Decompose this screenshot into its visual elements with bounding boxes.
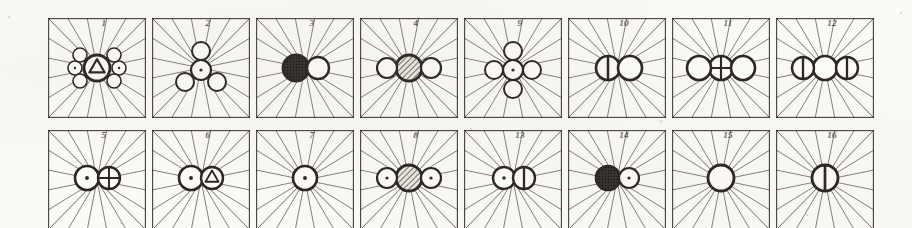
cell-diagram-15	[672, 130, 770, 228]
plate-cell-12: 12	[776, 18, 874, 118]
cell-number-label: 12	[827, 19, 837, 28]
glyph-group	[68, 48, 126, 88]
plate-cell-8: 8	[360, 130, 458, 228]
glyph-group	[687, 56, 755, 80]
cell-diagram-4	[360, 18, 458, 118]
scan-speck	[900, 12, 902, 14]
glyph-group	[377, 165, 441, 191]
cell-diagram-3	[256, 18, 354, 118]
cell-number-label: 1	[102, 19, 107, 28]
cell-number-label: 3	[310, 19, 315, 28]
cell-number-label: 16	[827, 131, 837, 140]
plate-cell-1: 1	[48, 18, 146, 118]
scan-speck	[660, 120, 662, 123]
plate-cell-15: 15	[672, 130, 770, 228]
plate-cell-9: 9	[464, 18, 562, 118]
cell-number-label: 4	[414, 19, 419, 28]
cell-number-label: 8	[414, 131, 419, 140]
cell-diagram-11	[672, 18, 770, 118]
cell-number-label: 14	[619, 131, 629, 140]
glyph-group	[75, 166, 120, 190]
cell-number-label: 7	[310, 131, 315, 140]
glyph-group	[293, 166, 317, 190]
glyph-group	[283, 55, 329, 81]
cell-diagram-6	[152, 130, 250, 228]
cell-diagram-5	[48, 130, 146, 228]
cell-diagram-12	[776, 18, 874, 118]
plate-cell-2: 2	[152, 18, 250, 118]
cell-diagram-14	[568, 130, 666, 228]
cell-number-label: 11	[724, 19, 733, 28]
cell-number-label: 5	[102, 131, 107, 140]
plate-figure: 12349101112567813141516	[0, 0, 912, 228]
cell-diagram-9	[464, 18, 562, 118]
glyph-group	[596, 166, 639, 190]
scan-speck	[8, 16, 10, 18]
glyph-group	[377, 55, 441, 81]
plate-cell-10: 10	[568, 18, 666, 118]
cell-diagram-7	[256, 130, 354, 228]
plate-cell-7: 7	[256, 130, 354, 228]
cell-number-label: 13	[515, 131, 525, 140]
glyph-group	[792, 56, 858, 80]
cell-number-label: 2	[206, 19, 211, 28]
plate-cell-5: 5	[48, 130, 146, 228]
cell-diagram-10	[568, 18, 666, 118]
plate-cell-11: 11	[672, 18, 770, 118]
cell-number-label: 6	[206, 131, 211, 140]
cell-number-label: 9	[518, 19, 523, 28]
glyph-group	[176, 42, 226, 91]
glyph-group	[812, 165, 838, 191]
cell-number-label: 10	[619, 19, 629, 28]
cell-diagram-1	[48, 18, 146, 118]
scan-speck	[806, 214, 808, 216]
glyph-group	[708, 165, 734, 191]
scan-speck	[470, 128, 472, 130]
cell-diagram-2	[152, 18, 250, 118]
plate-cell-16: 16	[776, 130, 874, 228]
cell-diagram-13	[464, 130, 562, 228]
glyph-group	[485, 42, 541, 98]
plate-cell-4: 4	[360, 18, 458, 118]
plate-cell-6: 6	[152, 130, 250, 228]
glyph-group	[179, 166, 223, 190]
scan-speck	[120, 222, 123, 224]
cell-diagram-8	[360, 130, 458, 228]
plate-cell-13: 13	[464, 130, 562, 228]
cell-diagram-16	[776, 130, 874, 228]
plate-cell-14: 14	[568, 130, 666, 228]
cell-number-label: 15	[723, 131, 733, 140]
plate-cell-3: 3	[256, 18, 354, 118]
